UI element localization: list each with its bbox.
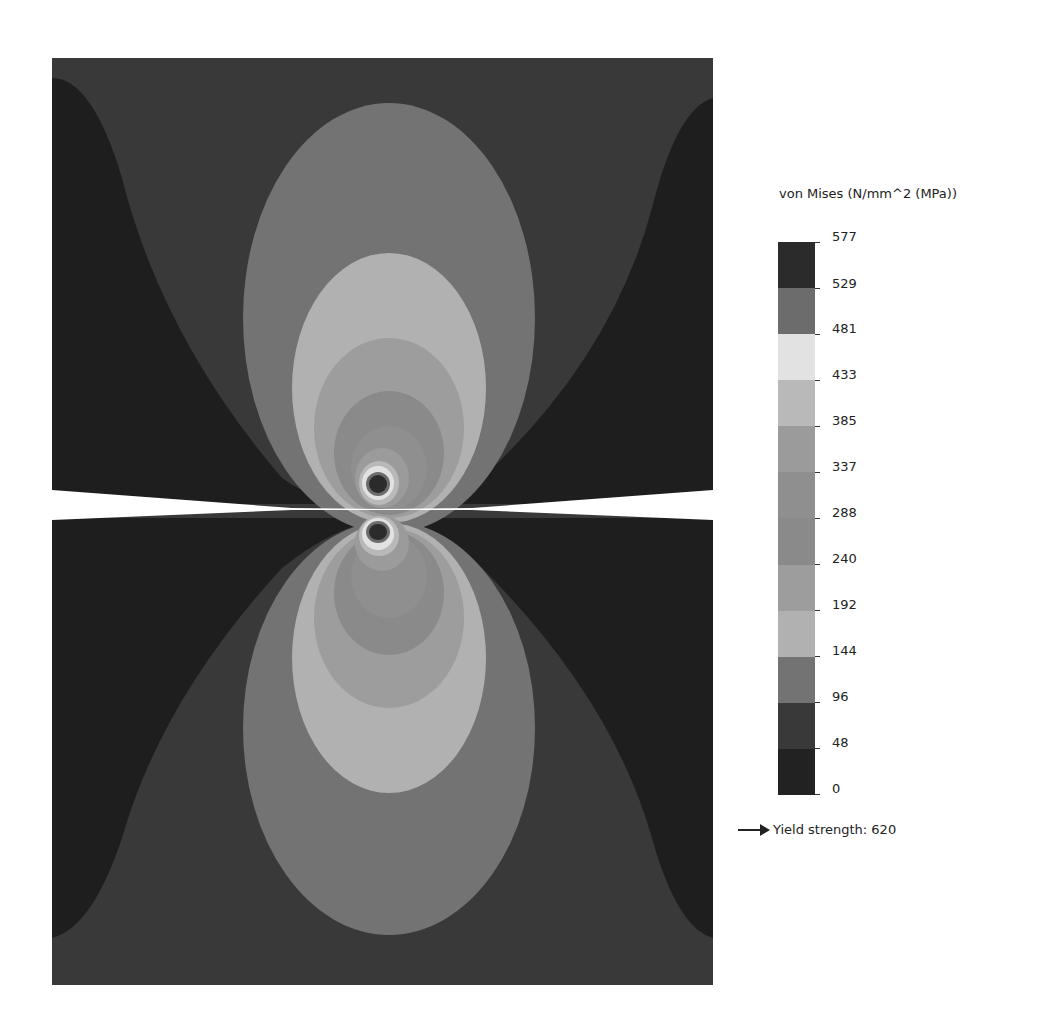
colorbar-band: [778, 242, 815, 288]
colorbar-tick: [815, 380, 820, 381]
tick-label-0: 0: [832, 781, 840, 796]
legend-title: von Mises (N/mm^2 (MPa)): [779, 186, 957, 201]
tick-label-577: 577: [832, 229, 857, 244]
colorbar-tick: [815, 748, 820, 749]
colorbar-band: [778, 611, 815, 657]
tick-label-144: 144: [832, 643, 857, 658]
tick-label-48: 48: [832, 735, 849, 750]
colorbar-band: [778, 380, 815, 426]
colorbar-tick: [815, 702, 820, 703]
tick-label-433: 433: [832, 367, 857, 382]
colorbar-tick: [815, 564, 820, 565]
colorbar-tick: [815, 472, 820, 473]
colorbar-tick: [815, 518, 820, 519]
tick-label-96: 96: [832, 689, 849, 704]
colorbar-band: [778, 657, 815, 703]
tick-label-240: 240: [832, 551, 857, 566]
colorbar-tick: [815, 242, 820, 243]
tick-label-288: 288: [832, 505, 857, 520]
arrow-head-icon: [760, 824, 770, 836]
colorbar-band: [778, 749, 815, 795]
colorbar-band: [778, 565, 815, 611]
colorbar-band: [778, 703, 815, 749]
yield-strength-indicator: Yield strength: 620: [738, 822, 896, 837]
stress-contour-plot: [52, 58, 713, 985]
yield-strength-label: Yield strength: 620: [773, 822, 896, 837]
arrow-icon: [738, 829, 760, 831]
colorbar-band: [778, 518, 815, 564]
colorbar-tick: [815, 656, 820, 657]
colorbar-tick: [815, 426, 820, 427]
colorbar-band: [778, 334, 815, 380]
colorbar-tick: [815, 334, 820, 335]
tick-label-385: 385: [832, 413, 857, 428]
tick-label-529: 529: [832, 276, 857, 291]
colorbar-tick: [815, 794, 820, 795]
contour-svg: [52, 58, 713, 985]
tick-label-337: 337: [832, 459, 857, 474]
colorbar-tick: [815, 288, 820, 289]
colorbar-band: [778, 472, 815, 518]
colorbar-tick: [815, 610, 820, 611]
tick-label-481: 481: [832, 321, 857, 336]
colorbar-band: [778, 288, 815, 334]
colorbar: [778, 242, 815, 795]
tick-label-192: 192: [832, 597, 857, 612]
colorbar-band: [778, 426, 815, 472]
